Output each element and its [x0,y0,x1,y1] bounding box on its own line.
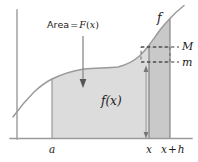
lower-bound-m-label: m [182,57,192,68]
area-label: Area=F(x) [47,20,99,30]
axis-tick-label-a: a [49,144,55,155]
axis-tick-label-x-plus-h: x+h [161,144,185,155]
figure-area-under-curve: Area=F(x) f(x) f M m a x x+h [0,0,198,162]
area-label-arrow [80,36,87,88]
area-label-close-paren: ) [95,19,99,30]
curve-f-label: f [157,12,162,25]
upper-bound-M-label: M [182,41,193,52]
area-label-word: Area [47,19,69,30]
axis-label-h: h [178,143,185,155]
fx-label: f(x) [101,95,122,107]
axis-tick-label-x: x [146,144,152,155]
area-label-equals: = [69,19,79,30]
shaded-area-increment [149,19,170,139]
axis-label-plus: + [167,143,178,155]
